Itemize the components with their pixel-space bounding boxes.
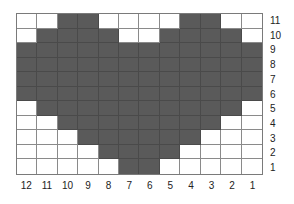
empty-cell — [17, 101, 37, 116]
pixel-grid — [16, 13, 263, 175]
filled-cell — [78, 130, 98, 145]
filled-cell — [58, 87, 78, 102]
empty-cell — [17, 159, 37, 174]
empty-cell — [17, 29, 37, 44]
filled-cell — [180, 116, 200, 131]
row-label: 2 — [270, 146, 281, 161]
filled-cell — [17, 43, 37, 58]
filled-cell — [180, 87, 200, 102]
filled-cell — [78, 72, 98, 87]
empty-cell — [180, 145, 200, 160]
empty-cell — [119, 14, 139, 29]
filled-cell — [201, 72, 221, 87]
row-label: 10 — [270, 28, 281, 43]
filled-cell — [221, 101, 241, 116]
empty-cell — [37, 116, 57, 131]
filled-cell — [58, 14, 78, 29]
filled-cell — [119, 116, 139, 131]
column-label: 7 — [119, 180, 140, 191]
filled-cell — [221, 72, 241, 87]
filled-cell — [201, 58, 221, 73]
empty-cell — [201, 130, 221, 145]
filled-cell — [78, 116, 98, 131]
filled-cell — [78, 29, 98, 44]
empty-cell — [201, 145, 221, 160]
filled-cell — [139, 43, 159, 58]
empty-cell — [242, 159, 262, 174]
column-label: 11 — [37, 180, 58, 191]
column-labels: 121110987654321 — [16, 180, 263, 191]
column-label: 2 — [222, 180, 243, 191]
filled-cell — [139, 145, 159, 160]
filled-cell — [78, 43, 98, 58]
row-label: 5 — [270, 101, 281, 116]
filled-cell — [221, 58, 241, 73]
filled-cell — [139, 116, 159, 131]
filled-cell — [119, 58, 139, 73]
empty-cell — [37, 145, 57, 160]
filled-cell — [119, 87, 139, 102]
filled-cell — [242, 58, 262, 73]
filled-cell — [99, 130, 119, 145]
filled-cell — [119, 43, 139, 58]
filled-cell — [78, 14, 98, 29]
filled-cell — [180, 14, 200, 29]
row-label: 7 — [270, 72, 281, 87]
filled-cell — [58, 72, 78, 87]
filled-cell — [201, 87, 221, 102]
filled-cell — [180, 43, 200, 58]
filled-cell — [37, 29, 57, 44]
empty-cell — [99, 14, 119, 29]
filled-cell — [37, 87, 57, 102]
filled-cell — [119, 130, 139, 145]
empty-cell — [221, 145, 241, 160]
filled-cell — [99, 58, 119, 73]
filled-cell — [139, 101, 159, 116]
filled-cell — [242, 72, 262, 87]
empty-cell — [119, 29, 139, 44]
row-labels: 1110987654321 — [270, 13, 281, 175]
row-label: 4 — [270, 116, 281, 131]
column-label: 9 — [78, 180, 99, 191]
filled-cell — [139, 130, 159, 145]
empty-cell — [160, 14, 180, 29]
filled-cell — [160, 29, 180, 44]
filled-cell — [78, 58, 98, 73]
empty-cell — [242, 14, 262, 29]
filled-cell — [160, 145, 180, 160]
filled-cell — [119, 145, 139, 160]
empty-cell — [160, 159, 180, 174]
filled-cell — [160, 87, 180, 102]
filled-cell — [160, 101, 180, 116]
empty-cell — [99, 159, 119, 174]
empty-cell — [17, 116, 37, 131]
row-label: 3 — [270, 131, 281, 146]
column-label: 10 — [57, 180, 78, 191]
filled-cell — [242, 87, 262, 102]
empty-cell — [242, 116, 262, 131]
filled-cell — [17, 87, 37, 102]
empty-cell — [139, 29, 159, 44]
filled-cell — [221, 29, 241, 44]
filled-cell — [180, 58, 200, 73]
filled-cell — [99, 101, 119, 116]
empty-cell — [242, 29, 262, 44]
empty-cell — [221, 116, 241, 131]
empty-cell — [37, 14, 57, 29]
filled-cell — [99, 29, 119, 44]
filled-cell — [180, 29, 200, 44]
filled-cell — [242, 43, 262, 58]
filled-cell — [201, 43, 221, 58]
filled-cell — [160, 72, 180, 87]
filled-cell — [37, 101, 57, 116]
filled-cell — [37, 58, 57, 73]
empty-cell — [242, 130, 262, 145]
empty-cell — [242, 101, 262, 116]
filled-cell — [221, 87, 241, 102]
empty-cell — [180, 159, 200, 174]
empty-cell — [221, 14, 241, 29]
empty-cell — [58, 145, 78, 160]
filled-cell — [180, 72, 200, 87]
empty-cell — [201, 159, 221, 174]
row-label: 8 — [270, 57, 281, 72]
